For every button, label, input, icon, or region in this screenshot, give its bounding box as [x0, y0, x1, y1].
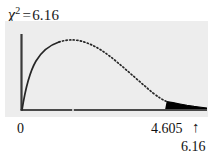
statistic-arrow-icon: ↑ — [192, 119, 200, 135]
plot-panel — [5, 21, 208, 117]
x-axis-label-statistic: 6.16 — [181, 139, 206, 155]
chi-square-figure: χ2=6.16 0 4.605 ↑ 6.16 — [0, 0, 219, 162]
distribution-plot — [5, 21, 208, 117]
density-curve-rising — [22, 42, 59, 110]
density-curve-tail — [59, 40, 167, 102]
x-axis-label-origin: 0 — [17, 121, 24, 137]
figure-title: χ2=6.16 — [8, 1, 59, 20]
chi-exponent: 2 — [15, 5, 20, 16]
x-axis-label-critical-value: 4.605 — [151, 121, 183, 137]
